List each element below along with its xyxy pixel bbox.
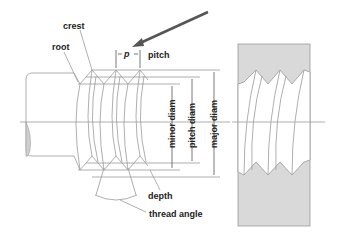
thread-angle-leader — [120, 200, 146, 212]
label-root: root — [52, 42, 70, 52]
depth-leader — [150, 170, 160, 190]
pitch-arrow — [138, 12, 208, 44]
label-minor-diam: minor diam — [167, 99, 177, 148]
angle-line-right — [128, 168, 136, 195]
label-pitch-diam: pitch diam — [187, 103, 197, 148]
bolt-broken-end — [26, 122, 31, 156]
crest-leader — [80, 30, 92, 70]
label-major-diam: major diam — [209, 100, 219, 148]
thread-helix-lines — [76, 70, 146, 170]
section-view-thread — [238, 70, 310, 175]
label-depth: depth — [148, 191, 173, 201]
pitch-arrowhead — [132, 38, 144, 47]
label-p: p — [123, 49, 130, 59]
root-leader — [64, 52, 78, 82]
label-pitch: pitch — [148, 50, 170, 60]
thread-diagram: crest root p pitch minor diam pitch diam… — [0, 0, 341, 232]
bolt-shank — [26, 73, 74, 156]
label-thread-angle: thread angle — [149, 209, 203, 219]
label-crest: crest — [63, 21, 85, 31]
thread-angle-arc — [95, 195, 137, 200]
angle-line-left — [96, 168, 104, 195]
